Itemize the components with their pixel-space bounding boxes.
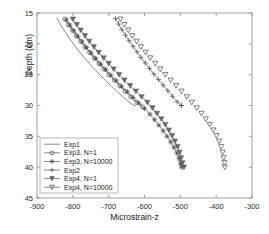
marker-triangle-down-open — [203, 117, 208, 122]
y-tick-label: 45 — [25, 194, 33, 203]
marker-triangle-down-filled — [163, 122, 168, 127]
marker-plus — [130, 44, 135, 49]
marker-triangle-down-open — [126, 28, 131, 33]
marker-asterisk — [98, 62, 103, 67]
marker-triangle-down-open — [163, 72, 168, 77]
marker-triangle-down-open — [194, 106, 199, 111]
marker-asterisk — [84, 45, 89, 50]
marker-asterisk — [108, 73, 113, 78]
marker-asterisk — [64, 17, 69, 22]
y-tick-label: 35 — [25, 132, 33, 141]
marker-triangle-down-open — [222, 165, 227, 170]
marker-plus — [119, 27, 124, 32]
marker-triangle-down-open — [184, 95, 189, 100]
marker-triangle-down-open — [207, 122, 212, 127]
marker-asterisk — [93, 56, 98, 61]
marker-triangle-down-filled — [175, 145, 180, 150]
marker-asterisk — [119, 84, 124, 89]
chart-canvas: -900-800-700-600-500-400-300152025303540… — [0, 0, 269, 234]
marker-asterisk — [161, 128, 166, 133]
marker-asterisk — [75, 34, 80, 39]
x-tick-label: -900 — [29, 202, 44, 211]
figure-container: -900-800-700-600-500-400-300152025303540… — [0, 0, 269, 234]
marker-triangle-down-open — [138, 45, 143, 50]
marker-triangle-down-filled — [159, 117, 164, 122]
legend-item-label: Exp2 — [64, 167, 80, 175]
marker-asterisk — [89, 50, 94, 55]
y-tick-label: 40 — [25, 163, 33, 172]
marker-asterisk — [103, 67, 108, 72]
marker-triangle-down-open — [134, 39, 139, 44]
y-axis-label: Depth (cm) — [24, 0, 34, 110]
marker-asterisk — [142, 106, 147, 111]
marker-triangle-down-open — [221, 156, 226, 161]
marker-triangle-down-filled — [166, 128, 171, 133]
marker-asterisk — [67, 23, 72, 28]
marker-plus — [123, 33, 128, 38]
marker-asterisk — [50, 159, 55, 164]
marker-triangle-down-open — [122, 23, 127, 28]
x-tick-label: -400 — [209, 202, 224, 211]
marker-triangle-down-filled — [82, 34, 87, 39]
x-tick-label: -300 — [244, 202, 259, 211]
marker-asterisk — [156, 123, 161, 128]
marker-asterisk — [136, 100, 141, 105]
marker-triangle-down-open — [199, 111, 204, 116]
marker-triangle-down-open — [211, 128, 216, 133]
series-3 — [113, 16, 184, 108]
marker-triangle-down-open — [153, 61, 158, 66]
legend-item-label: Exp4, N=1 — [64, 175, 97, 183]
marker-triangle-down-filled — [154, 111, 159, 116]
marker-triangle-down-open — [168, 78, 173, 83]
series-5 — [118, 17, 227, 170]
legend-item-label: Exp4, N=10000 — [64, 184, 113, 192]
marker-triangle-down-filled — [78, 28, 83, 33]
x-tick-label: -700 — [101, 202, 116, 211]
marker-triangle-down-open — [143, 50, 148, 55]
marker-triangle-down-filled — [70, 17, 75, 22]
series-line — [115, 19, 181, 106]
marker-triangle-down-open — [216, 139, 221, 144]
marker-triangle-down-open — [219, 145, 224, 150]
marker-triangle-down-open — [130, 34, 135, 39]
marker-triangle-down-open — [173, 84, 178, 89]
marker-asterisk — [125, 89, 130, 94]
x-tick-label: -800 — [65, 202, 80, 211]
legend[interactable]: Exp1Exp3, N=1Exp3, N=10000Exp2Exp4, N=1E… — [40, 138, 118, 193]
marker-triangle-down-open — [118, 17, 123, 22]
marker-triangle-down-open — [158, 67, 163, 72]
legend-item-label: Exp3, N=10000 — [64, 158, 113, 166]
legend-item-label: Exp3, N=1 — [64, 149, 97, 157]
marker-triangle-down-open — [214, 134, 219, 139]
marker-asterisk — [152, 117, 157, 122]
marker-asterisk — [164, 134, 169, 139]
marker-triangle-down-open — [220, 150, 225, 155]
marker-triangle-down-open — [148, 56, 153, 61]
x-axis-label: Microstrain-z — [0, 212, 269, 222]
marker-triangle-down-open — [189, 100, 194, 105]
marker-triangle-down-filled — [172, 139, 177, 144]
marker-plus — [126, 38, 131, 43]
marker-asterisk — [130, 95, 135, 100]
marker-triangle-down-filled — [169, 134, 174, 139]
marker-plus — [134, 49, 139, 54]
marker-triangle-down-open — [179, 89, 184, 94]
marker-triangle-down-filled — [74, 23, 79, 28]
marker-asterisk — [71, 28, 76, 33]
series-line — [65, 19, 142, 107]
marker-asterisk — [114, 78, 119, 83]
marker-asterisk — [147, 112, 152, 117]
x-tick-label: -600 — [137, 202, 152, 211]
marker-plus — [113, 16, 118, 21]
marker-asterisk — [168, 139, 173, 144]
legend-item-label: Exp1 — [64, 141, 80, 149]
marker-asterisk — [80, 39, 85, 44]
x-tick-label: -500 — [173, 202, 188, 211]
